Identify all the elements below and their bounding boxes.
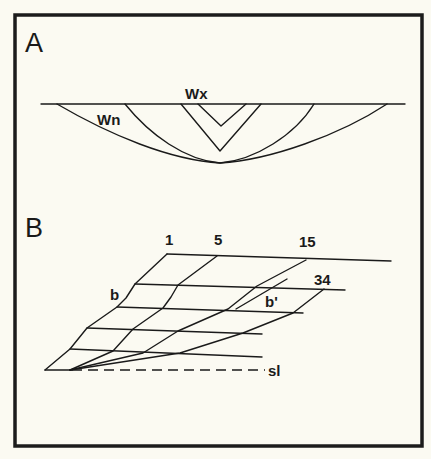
label-sl: sl xyxy=(268,362,281,379)
horizontal-line-1 xyxy=(167,254,391,261)
inner-v-profile xyxy=(198,104,246,126)
label-wn: Wn xyxy=(97,111,120,128)
label-wx: Wx xyxy=(185,85,208,102)
figure-canvas: A Wx Wn B xyxy=(0,0,431,459)
label-15: 15 xyxy=(299,233,316,250)
panel-a: A Wx Wn xyxy=(25,28,405,163)
panel-b: B 1 5 15 34 b b' xyxy=(25,213,391,379)
label-b: b xyxy=(110,286,119,303)
panel-b-letter: B xyxy=(25,213,43,243)
label-34: 34 xyxy=(314,271,331,288)
label-b-prime: b' xyxy=(265,293,278,310)
figure: A Wx Wn B xyxy=(0,0,431,459)
panel-a-letter: A xyxy=(25,28,43,58)
outer-v-profile xyxy=(181,104,261,151)
label-5: 5 xyxy=(214,231,222,248)
label-1: 1 xyxy=(165,231,173,248)
oblique-line-34 xyxy=(70,289,324,370)
middle-profile-arc xyxy=(125,104,314,163)
